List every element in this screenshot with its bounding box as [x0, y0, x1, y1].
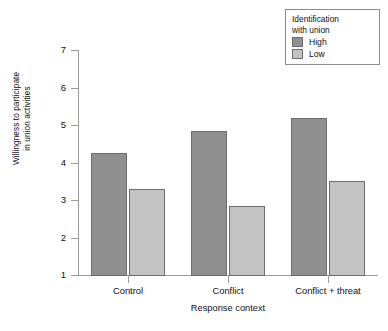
legend-title-line-1: Identification — [292, 14, 374, 25]
x-tick-mark — [228, 276, 229, 283]
legend-label-high: High — [309, 37, 327, 47]
x-category-label: Conflict — [212, 286, 243, 296]
y-tick-label: 7 — [42, 44, 66, 55]
y-axis-line — [78, 50, 79, 276]
legend-label-low: Low — [309, 49, 325, 59]
y-tick-mark — [71, 88, 78, 89]
y-tick-mark — [71, 200, 78, 201]
bar-chart: Willingness to participate in union acti… — [0, 0, 388, 331]
y-tick-label: 3 — [42, 194, 66, 205]
y-tick-mark — [71, 238, 78, 239]
y-axis-title: Willingness to participate in union acti… — [12, 49, 33, 189]
y-tick-label: 4 — [42, 157, 66, 168]
x-tick-mark — [328, 276, 329, 283]
y-tick-label: 6 — [42, 82, 66, 93]
legend: Identification with union High Low — [285, 9, 380, 65]
legend-title-line-2: with union — [292, 25, 374, 36]
y-axis-title-line-2: in union activities — [22, 49, 33, 189]
legend-item-low[interactable]: Low — [292, 49, 374, 59]
bar-control-high — [91, 153, 127, 276]
legend-title: Identification with union — [292, 14, 374, 35]
legend-swatch-low-icon — [292, 49, 303, 59]
y-tick-mark — [71, 163, 78, 164]
bar-conflict-threat-high — [291, 118, 327, 277]
bar-conflict-threat-low — [329, 181, 365, 276]
y-tick-label: 5 — [42, 119, 66, 130]
x-category-label: Conflict + threat — [295, 286, 360, 296]
x-category-label: Control — [113, 286, 143, 296]
y-tick-label: 1 — [42, 269, 66, 280]
bar-control-low — [129, 189, 165, 276]
y-tick-mark — [71, 50, 78, 51]
legend-swatch-high-icon — [292, 37, 303, 47]
y-axis-title-line-1: Willingness to participate — [12, 49, 23, 189]
y-tick-mark — [71, 275, 78, 276]
y-tick-label: 2 — [42, 232, 66, 243]
bar-conflict-low — [229, 206, 265, 276]
bar-conflict-high — [191, 131, 227, 276]
legend-item-high[interactable]: High — [292, 37, 374, 47]
y-tick-mark — [71, 125, 78, 126]
x-axis-title: Response context — [78, 303, 378, 313]
x-tick-mark — [128, 276, 129, 283]
